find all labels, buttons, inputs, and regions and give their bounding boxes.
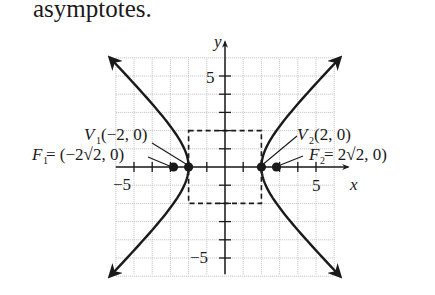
f1-label: F 1 = (−2√2, 0) xyxy=(31,145,124,166)
point-v2 xyxy=(257,162,266,171)
svg-text:(−2, 0): (−2, 0) xyxy=(101,125,147,144)
f2-leader-line xyxy=(280,156,303,165)
v2-leader-line xyxy=(263,136,297,164)
point-f2 xyxy=(272,162,281,171)
f2-label: F 2 = 2√2, 0) xyxy=(308,145,387,166)
svg-text:= (−2√2, 0): = (−2√2, 0) xyxy=(46,145,124,164)
f1-leader-line xyxy=(148,157,170,166)
y-tick-label-5: 5 xyxy=(206,68,215,87)
x-tick-label-5: 5 xyxy=(312,176,321,195)
v2-label: V 2 (2, 0) xyxy=(297,125,351,146)
v1-label: V 1 (−2, 0) xyxy=(84,125,147,146)
svg-text:F: F xyxy=(308,145,320,164)
point-v1 xyxy=(184,162,193,171)
svg-text:(2, 0): (2, 0) xyxy=(314,125,351,144)
hyperbola-graph: 5 −5 −5 5 y x V 1 (−2, 0) F 1 = (−2√2, 0… xyxy=(0,0,435,295)
x-axis-label: x xyxy=(349,175,358,194)
svg-text:F: F xyxy=(31,145,43,164)
x-tick-label-neg5: −5 xyxy=(113,175,131,194)
svg-text:= 2√2, 0): = 2√2, 0) xyxy=(324,145,387,164)
point-f1 xyxy=(169,162,178,171)
y-axis-label: y xyxy=(212,32,222,51)
y-tick-label-neg5: −5 xyxy=(190,248,208,267)
